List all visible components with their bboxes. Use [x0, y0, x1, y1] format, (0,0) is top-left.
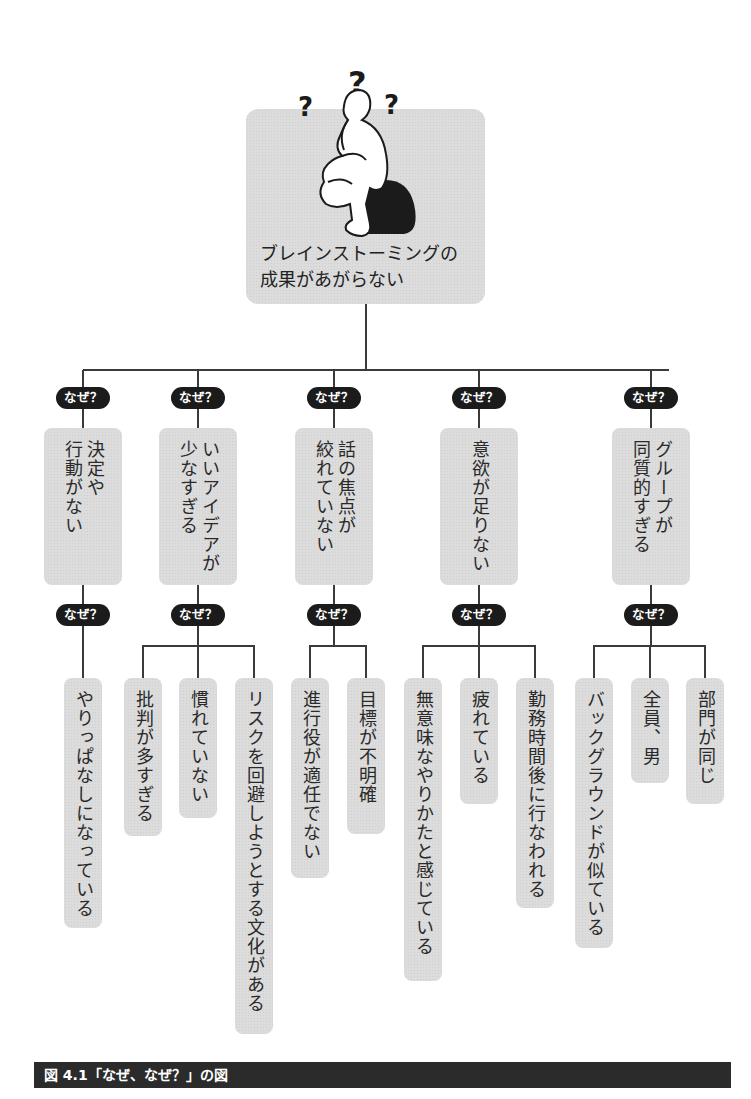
- root-problem-text: ブレインストーミングの 成果があがらない: [260, 241, 458, 293]
- sub-cause-text: 目標が不明確: [355, 690, 377, 804]
- cause-text: いいアイデアが 少なすぎる: [176, 440, 220, 573]
- cause-box: いいアイデアが 少なすぎる: [159, 428, 237, 585]
- cause-box: グループが 同質的すぎる: [612, 428, 690, 585]
- cause-text: 決定や 行動がない: [61, 440, 105, 535]
- sub-cause-box: リスクを回避しようとする文化がある: [235, 678, 273, 1034]
- sub-cause-box: 慣れていない: [179, 678, 217, 818]
- connector-line: [534, 646, 536, 678]
- sub-cause-text: 批判が多すぎる: [132, 690, 154, 823]
- sub-cause-box: バックグラウンドが似ている: [575, 678, 613, 948]
- connector-line: [82, 585, 84, 678]
- connector-line: [365, 304, 367, 370]
- connector-line: [649, 646, 651, 678]
- connector-line: [365, 646, 367, 678]
- sub-cause-box: やりっぱなしになっている: [64, 678, 102, 928]
- cause-text: 話の焦点が 絞れていない: [312, 440, 356, 554]
- figure-caption: 図 4.1「なぜ、なぜ？」の図: [34, 1062, 731, 1088]
- why-badge: なぜ？: [624, 387, 678, 409]
- why-badge: なぜ？: [307, 604, 361, 626]
- cause-box: 話の焦点が 絞れていない: [295, 428, 373, 585]
- connector-line: [253, 646, 255, 678]
- sub-cause-text: バックグラウンドが似ている: [583, 690, 605, 937]
- why-badge: なぜ？: [171, 387, 225, 409]
- connector-line: [309, 646, 311, 678]
- why-badge: なぜ？: [307, 387, 361, 409]
- sub-cause-text: 疲れている: [468, 690, 490, 785]
- connector-line: [593, 646, 595, 678]
- sub-cause-box: 無意味なやりかたと感じている: [404, 678, 442, 981]
- sub-cause-box: 進行役が適任でない: [291, 678, 329, 878]
- sub-cause-box: 全員、男: [631, 678, 669, 783]
- cause-box: 意欲が足りない: [440, 428, 518, 585]
- question-mark-icon: ?: [298, 92, 313, 122]
- connector-line: [309, 645, 367, 647]
- sub-cause-text: 勤務時間後に行なわれる: [524, 690, 546, 899]
- connector-line: [478, 646, 480, 678]
- sub-cause-text: 進行役が適任でない: [299, 690, 321, 861]
- sub-cause-box: 勤務時間後に行なわれる: [516, 678, 554, 908]
- why-badge: なぜ？: [56, 387, 110, 409]
- connector-line: [142, 646, 144, 678]
- thinker-illustration-icon: ? ? ?: [286, 64, 436, 244]
- sub-cause-text: リスクを回避しようとする文化がある: [243, 690, 265, 1013]
- cause-box: 決定や 行動がない: [44, 428, 122, 585]
- sub-cause-box: 批判が多すぎる: [124, 678, 162, 836]
- why-badge: なぜ？: [452, 387, 506, 409]
- sub-cause-text: やりっぱなしになっている: [72, 690, 94, 918]
- connector-line: [83, 369, 669, 371]
- sub-cause-text: 全員、男: [639, 690, 661, 766]
- sub-cause-text: 無意味なやりかたと感じている: [412, 690, 434, 956]
- question-mark-icon: ?: [384, 90, 399, 120]
- cause-text: グループが 同質的すぎる: [629, 440, 673, 554]
- cause-text: 意欲が足りない: [468, 440, 490, 573]
- sub-cause-box: 部門が同じ: [686, 678, 724, 804]
- why-badge: なぜ？: [452, 604, 506, 626]
- sub-cause-text: 部門が同じ: [694, 690, 716, 785]
- why-badge: なぜ？: [56, 604, 110, 626]
- sub-cause-box: 疲れている: [460, 678, 498, 804]
- sub-cause-box: 目標が不明確: [347, 678, 385, 834]
- connector-line: [197, 646, 199, 678]
- connector-line: [704, 646, 706, 678]
- root-node: ? ? ? ブレインストーミングの 成果があがらない: [246, 109, 485, 304]
- why-badge: なぜ？: [171, 604, 225, 626]
- connector-line: [422, 646, 424, 678]
- why-badge: なぜ？: [624, 604, 678, 626]
- sub-cause-text: 慣れていない: [187, 690, 209, 804]
